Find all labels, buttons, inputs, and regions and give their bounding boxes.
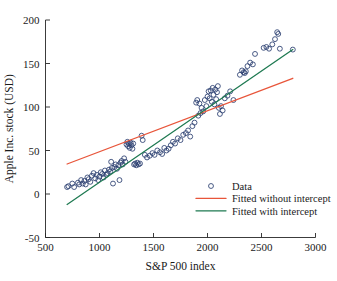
- data-point: [215, 84, 220, 89]
- y-axis-title: Apple Inc. stock (USD): [3, 74, 16, 183]
- data-point: [202, 98, 207, 103]
- axes: 50010001500200025003000-50050100150200: [23, 14, 327, 253]
- y-tick-label: 0: [34, 188, 40, 200]
- data-point: [245, 64, 250, 69]
- fit-line-fitted-without-intercept: [67, 78, 293, 164]
- legend-item[interactable]: Data: [209, 181, 253, 192]
- y-tick-label: -50: [25, 232, 40, 244]
- data-point: [111, 181, 116, 186]
- chart-figure: 50010001500200025003000-50050100150200 D…: [0, 0, 337, 281]
- data-series: [65, 30, 296, 205]
- x-tick-label: 2000: [197, 241, 220, 253]
- data-point: [220, 108, 225, 113]
- legend-item[interactable]: Fitted without intercept: [196, 193, 331, 204]
- y-tick-label: 150: [23, 58, 40, 70]
- data-point: [217, 112, 222, 117]
- x-tick-label: 500: [37, 241, 54, 253]
- x-tick-label: 3000: [305, 241, 328, 253]
- scatter-points: [65, 30, 296, 190]
- legend-label: Fitted without intercept: [232, 193, 331, 204]
- x-tick-label: 2500: [251, 241, 274, 253]
- y-tick-label: 50: [29, 145, 41, 157]
- legend-label: Fitted with intercept: [232, 206, 317, 217]
- legend-label: Data: [232, 181, 252, 192]
- legend-item[interactable]: Fitted with intercept: [196, 206, 317, 217]
- data-point: [253, 51, 258, 56]
- data-point: [188, 134, 193, 139]
- data-point: [117, 178, 122, 183]
- legend-marker-icon: [209, 184, 214, 189]
- x-axis-title: S&P 500 index: [146, 260, 216, 272]
- data-point: [277, 46, 282, 51]
- data-point: [109, 159, 114, 164]
- y-tick-label: 200: [23, 14, 40, 26]
- fit-line-fitted-with-intercept: [67, 50, 293, 205]
- x-tick-label: 1000: [89, 241, 112, 253]
- chart-legend: DataFitted without interceptFitted with …: [196, 181, 331, 217]
- scatter-plot: 50010001500200025003000-50050100150200 D…: [0, 0, 337, 281]
- x-tick-label: 1500: [143, 241, 166, 253]
- y-tick-label: 100: [23, 101, 40, 113]
- data-point: [270, 42, 275, 47]
- data-point: [273, 37, 278, 42]
